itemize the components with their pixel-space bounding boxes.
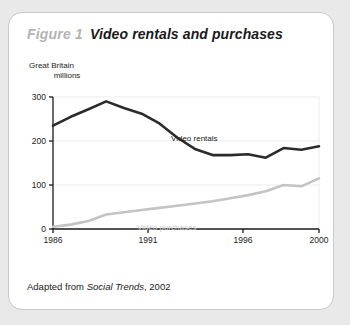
caption-source: Social Trends (87, 281, 144, 292)
figure-title-row: Figure 1Video rentals and purchases (27, 25, 283, 43)
caption-suffix: , 2002 (144, 281, 170, 292)
y-axis-tick-label: 100 (32, 180, 46, 190)
x-axis-tick-label: 1986 (44, 235, 63, 245)
x-axis-tick-label: 1996 (234, 235, 253, 245)
plot-background (53, 97, 319, 229)
figure-caption: Adapted from Social Trends, 2002 (27, 281, 170, 292)
chart-plot-area: 01002003001986199119962000Video rentalsV… (9, 79, 335, 229)
x-axis-tick-label: 2000 (310, 235, 329, 245)
figure-card: Figure 1Video rentals and purchases Grea… (8, 12, 334, 310)
y-axis-tick-label: 200 (32, 136, 46, 146)
series-label-rentals: Video rentals (171, 134, 218, 143)
series-label-purchases: Video purchases (137, 223, 196, 232)
figure-number-label: Figure 1 (27, 26, 83, 42)
y-axis-unit-line1: Great Britain (29, 61, 105, 71)
y-axis-tick-label: 0 (41, 224, 46, 234)
x-axis-tick-label: 1991 (139, 235, 158, 245)
y-axis-tick-label: 300 (32, 92, 46, 102)
y-axis-unit-label: Great Britain millions (29, 61, 105, 81)
line-chart: 01002003001986199119962000Video rentalsV… (19, 79, 335, 279)
caption-prefix: Adapted from (27, 281, 87, 292)
page-title: Video rentals and purchases (90, 26, 283, 42)
